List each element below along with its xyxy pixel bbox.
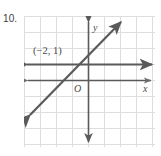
plot-background bbox=[24, 16, 155, 147]
y-axis-label: y bbox=[92, 22, 98, 33]
problem-number-label: 10. bbox=[3, 14, 17, 24]
coordinate-plane-graph: y x O (−2, 1) bbox=[24, 16, 155, 147]
graph-svg: y x O (−2, 1) bbox=[24, 16, 155, 147]
origin-label: O bbox=[74, 83, 81, 94]
point-coordinate-label: (−2, 1) bbox=[33, 45, 62, 57]
x-axis-label: x bbox=[142, 83, 148, 94]
figure-container: 10. bbox=[0, 0, 161, 156]
